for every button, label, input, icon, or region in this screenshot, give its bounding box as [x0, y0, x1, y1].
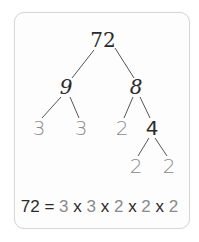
node-9: 9 [60, 77, 73, 97]
branch-72-8 [115, 48, 134, 78]
node-root: 72 [90, 30, 115, 50]
branch-9-3b [70, 97, 79, 118]
equation-factor: 2 [141, 197, 150, 216]
node-prime-3a: 3 [33, 118, 46, 138]
branch-8-4 [140, 97, 150, 118]
equation-factor: 3 [59, 197, 68, 216]
equation-equals: = [44, 197, 54, 216]
node-4: 4 [146, 118, 159, 138]
node-prime-3b: 3 [75, 118, 88, 138]
branch-8-2 [124, 97, 133, 118]
equation-factor: 2 [169, 197, 178, 216]
equation-operator: x [128, 197, 137, 216]
equation-operator: x [101, 197, 110, 216]
equation-operator: x [156, 197, 165, 216]
branch-9-3a [42, 97, 61, 118]
equation-operator: x [73, 197, 82, 216]
node-prime-2c: 2 [163, 156, 176, 176]
factorization-equation: 72 = 3 x 3 x 2 x 2 x 2 [0, 197, 199, 217]
node-prime-2a: 2 [116, 118, 129, 138]
branch-72-9 [72, 50, 94, 78]
node-prime-2b: 2 [130, 156, 143, 176]
equation-factor: 3 [86, 197, 95, 216]
node-8: 8 [130, 77, 143, 97]
equation-lhs: 72 [21, 197, 40, 216]
equation-factor: 2 [114, 197, 123, 216]
